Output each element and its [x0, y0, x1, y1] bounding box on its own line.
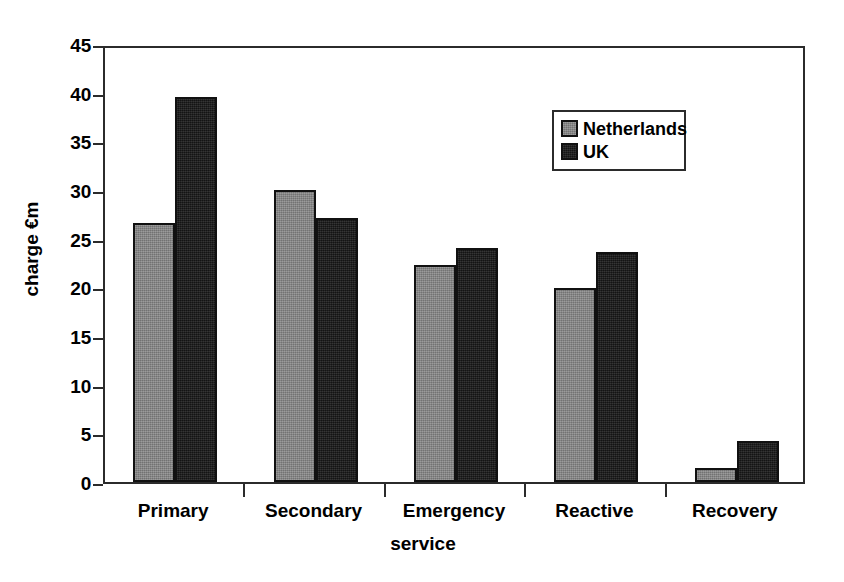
- y-axis-title: charge €m: [21, 169, 43, 329]
- y-axis-tick: [93, 387, 103, 389]
- bar-emergency-netherlands: [414, 265, 456, 482]
- legend-item-uk: UK: [561, 140, 677, 163]
- y-axis-tick: [93, 192, 103, 194]
- bar-recovery-netherlands: [695, 468, 737, 482]
- x-axis-title: service: [343, 533, 503, 555]
- x-axis-separator-tick: [665, 484, 667, 497]
- y-axis-tick-label: 0: [47, 474, 91, 493]
- legend-label: UK: [583, 143, 609, 161]
- legend-swatch-icon: [561, 143, 578, 160]
- y-axis-tick-label: 30: [47, 182, 91, 201]
- y-axis-tick: [93, 95, 103, 97]
- y-axis-tick: [93, 435, 103, 437]
- legend-swatch-icon: [561, 120, 578, 137]
- bar-reactive-uk: [596, 252, 638, 482]
- y-axis-tick: [93, 338, 103, 340]
- plot-area: NetherlandsUK: [103, 46, 805, 484]
- x-axis-category-label-emergency: Emergency: [384, 501, 524, 522]
- y-axis-tick: [93, 289, 103, 291]
- y-axis-tick-label: 20: [47, 279, 91, 298]
- x-axis-category-label-secondary: Secondary: [243, 501, 383, 522]
- bar-recovery-uk: [737, 441, 779, 482]
- bar-reactive-netherlands: [554, 288, 596, 482]
- y-axis-tick-label: 35: [47, 133, 91, 152]
- bar-primary-netherlands: [133, 223, 175, 482]
- x-axis-category-label-reactive: Reactive: [524, 501, 664, 522]
- y-axis-tick: [93, 46, 103, 48]
- y-axis-tick-label: 5: [47, 425, 91, 444]
- x-axis-separator-tick: [243, 484, 245, 497]
- bar-primary-uk: [175, 97, 217, 482]
- bar-secondary-netherlands: [274, 190, 316, 482]
- y-axis-tick-label: 40: [47, 85, 91, 104]
- y-axis-tick-label: 45: [47, 36, 91, 55]
- bars-layer: [105, 48, 803, 482]
- legend-item-netherlands: Netherlands: [561, 117, 677, 140]
- y-axis-tick-label: 25: [47, 231, 91, 250]
- y-axis-tick-label: 15: [47, 328, 91, 347]
- y-axis-tick: [93, 143, 103, 145]
- x-axis-separator-tick: [524, 484, 526, 497]
- y-axis-tick: [93, 241, 103, 243]
- y-axis-tick-label: 10: [47, 377, 91, 396]
- legend: NetherlandsUK: [552, 110, 686, 171]
- bar-secondary-uk: [316, 218, 358, 482]
- bar-chart-figure: 051015202530354045 charge €m Netherlands…: [0, 0, 844, 582]
- x-axis-separator-tick: [384, 484, 386, 497]
- y-axis-tick: [93, 484, 103, 486]
- x-axis-category-label-recovery: Recovery: [665, 501, 805, 522]
- x-axis-category-label-primary: Primary: [103, 501, 243, 522]
- legend-label: Netherlands: [583, 120, 687, 138]
- bar-emergency-uk: [456, 248, 498, 482]
